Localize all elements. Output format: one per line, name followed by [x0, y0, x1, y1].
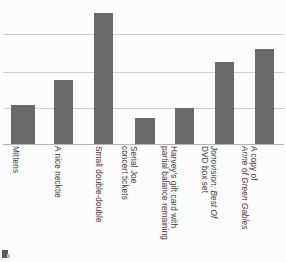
gridline-3 — [3, 34, 284, 35]
x-tick-label: Jonovision: Best OfDVD box set — [199, 146, 218, 218]
x-tick-label: A nice necktie — [53, 146, 62, 198]
bar-chart: MittensA nice necktieSmall double-double… — [0, 0, 286, 262]
x-tick-label-line: Small double-double — [94, 146, 103, 223]
bar — [94, 13, 113, 144]
x-tick-label-line: Mittens — [11, 146, 20, 173]
x-tick-label-line: partial balance remaining — [159, 146, 168, 240]
gridline-1 — [3, 108, 284, 109]
bar — [175, 108, 194, 144]
x-tick-label: Mittens — [11, 146, 20, 173]
bar — [215, 62, 234, 144]
plot-area — [0, 0, 286, 145]
x-tick-label: Small double-double — [94, 146, 103, 223]
x-tick-label-line: Harvey's gift card with — [169, 146, 178, 240]
x-tick-label: Serial Joeconcert tickets — [119, 146, 138, 200]
x-tick-label: A copy ofAnne of Green Gables — [239, 146, 258, 229]
bar — [135, 118, 155, 144]
corner-artifact-icon — [2, 250, 8, 258]
x-tick-label-line: Serial Joe — [129, 146, 138, 200]
gridline-2 — [3, 72, 284, 73]
x-tick-label-line: Anne of Green Gables — [239, 146, 248, 229]
x-tick-label-line: concert tickets — [119, 146, 128, 200]
bar — [54, 80, 73, 144]
x-tick-label-layer: MittensA nice necktieSmall double-double… — [0, 146, 286, 262]
bar — [255, 49, 274, 144]
x-tick-label-line: Jonovision: Best Of — [209, 146, 218, 218]
x-tick-label: Harvey's gift card withpartial balance r… — [159, 146, 178, 240]
bar — [11, 105, 35, 144]
x-tick-label-line: DVD box set — [199, 146, 208, 218]
x-axis-line — [3, 144, 284, 145]
x-tick-label-line: A nice necktie — [53, 146, 62, 198]
x-tick-label-line: A copy of — [249, 146, 258, 229]
